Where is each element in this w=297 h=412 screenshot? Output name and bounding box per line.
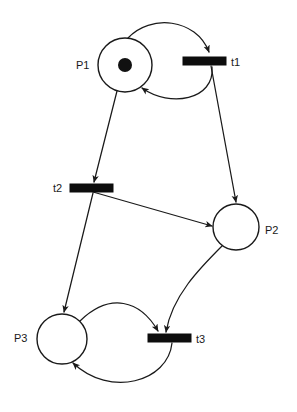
place-p3[interactable]: P3 [14, 314, 87, 364]
place-p1[interactable]: P1 [76, 38, 152, 92]
place-p2-label: P2 [265, 224, 278, 236]
arc-t1-to-p1 [142, 67, 212, 99]
arc-t3-to-p3 [73, 343, 172, 382]
arc-p3-to-t3 [80, 303, 158, 331]
petri-net-canvas: P1 P2 P3 t1 t2 t3 [0, 0, 297, 412]
transitions-group: t1 t2 t3 [53, 56, 240, 345]
transition-t2-bar[interactable] [70, 184, 113, 192]
transition-t2-label: t2 [53, 182, 62, 194]
transition-t2[interactable]: t2 [53, 182, 113, 194]
transition-t3-bar[interactable] [148, 334, 191, 342]
place-p3-circle[interactable] [37, 314, 87, 364]
arc-p2-to-t3 [166, 246, 222, 332]
transition-t3[interactable]: t3 [148, 333, 205, 345]
place-p1-label: P1 [76, 59, 89, 71]
arc-p1-to-t2 [94, 91, 117, 182]
arc-t2-to-p2 [93, 192, 212, 226]
transition-t1-label: t1 [231, 56, 240, 68]
place-p2-circle[interactable] [213, 204, 259, 250]
transition-t1-bar[interactable] [183, 57, 226, 65]
place-p1-token [118, 58, 132, 72]
transition-t3-label: t3 [196, 333, 205, 345]
arc-t1-to-p2 [211, 66, 236, 202]
place-p3-label: P3 [14, 332, 27, 344]
place-p2[interactable]: P2 [213, 204, 278, 250]
arc-t2-to-p3 [64, 193, 93, 312]
